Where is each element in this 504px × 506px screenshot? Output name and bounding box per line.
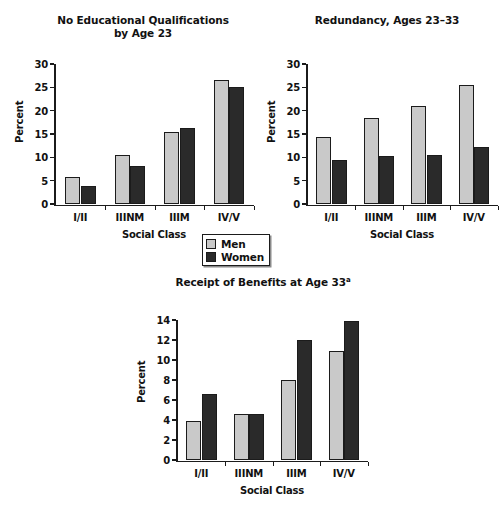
chart-title: No Educational Qualifications by Age 23 — [28, 14, 258, 40]
bar-women-iv-v — [229, 87, 244, 204]
y-axis-tick-labels: 051015202530 — [280, 44, 300, 204]
x-tick-mark — [254, 206, 255, 210]
y-tick-label: 14 — [156, 315, 170, 326]
bar-women-i-ii — [202, 394, 217, 460]
chart-title-footnote-marker: a — [346, 276, 351, 284]
bar-women-i-ii — [332, 160, 347, 204]
x-tick-mark — [450, 206, 451, 210]
y-tick-label: 10 — [286, 152, 300, 163]
x-tick-mark — [155, 206, 156, 210]
y-tick-label: 15 — [286, 129, 300, 140]
plot-area-wrapper: Percent 051015202530 I/IIIIINMIIIMIV/V S… — [8, 44, 258, 246]
y-tick-label: 0 — [293, 199, 300, 210]
y-tick-mark — [302, 63, 306, 64]
legend-swatch-men-icon — [206, 239, 216, 249]
y-tick-mark — [50, 180, 54, 181]
x-axis-label: Social Class — [306, 229, 498, 240]
bar-men-i-ii — [65, 177, 80, 204]
x-tick-label: IIIM — [286, 468, 306, 479]
y-tick-label: 25 — [34, 82, 48, 93]
x-tick-label: I/II — [194, 468, 208, 479]
x-tick-label: IV/V — [333, 468, 355, 479]
chart-title-line1: No Educational Qualifications — [28, 14, 258, 27]
y-tick-mark — [302, 180, 306, 181]
y-tick-label: 12 — [156, 335, 170, 346]
bar-women-iiim — [297, 340, 312, 460]
y-tick-mark — [172, 359, 176, 360]
y-tick-label: 10 — [156, 355, 170, 366]
bar-women-iv-v — [474, 147, 489, 204]
x-tick-mark — [225, 462, 226, 466]
y-axis-tick-labels: 02468101214 — [150, 300, 170, 460]
x-tick-label: IIINM — [235, 468, 263, 479]
y-tick-label: 25 — [286, 82, 300, 93]
chart-panel-receipt-of-benefits: Receipt of Benefits at Age 33a Percent 0… — [128, 276, 388, 502]
y-axis-label: Percent — [136, 332, 150, 432]
bar-men-iiim — [281, 380, 296, 460]
bar-men-iiinm — [115, 155, 130, 204]
bar-men-iv-v — [459, 85, 474, 204]
x-tick-mark — [403, 206, 404, 210]
x-tick-mark — [498, 206, 499, 210]
y-axis-label: Percent — [14, 72, 28, 172]
x-axis-label: Social Class — [176, 485, 368, 496]
y-tick-label: 30 — [34, 59, 48, 70]
x-tick-label: IIIM — [169, 212, 189, 223]
x-tick-label: I/II — [324, 212, 338, 223]
y-axis-label: Percent — [266, 72, 280, 172]
x-tick-mark — [105, 206, 106, 210]
bar-women-iiinm — [379, 156, 394, 204]
chart-title-text: Receipt of Benefits at Age 33 — [175, 276, 345, 288]
chart-title-line1: Redundancy, Ages 23–33 — [272, 14, 502, 27]
y-tick-mark — [172, 439, 176, 440]
bar-women-iiinm — [130, 166, 145, 204]
y-tick-label: 10 — [34, 152, 48, 163]
y-tick-mark — [50, 110, 54, 111]
x-tick-mark — [273, 462, 274, 466]
legend-label-men: Men — [221, 238, 245, 250]
x-tick-label: IIIM — [416, 212, 436, 223]
legend: Men Women — [202, 234, 270, 266]
y-tick-mark — [302, 203, 306, 204]
y-tick-mark — [50, 63, 54, 64]
legend-item-men: Men — [206, 237, 264, 250]
x-tick-mark — [355, 206, 356, 210]
chart-title-line1: Receipt of Benefits at Age 33a — [148, 276, 378, 289]
plot-area-wrapper: Percent 051015202530 I/IIIIINMIIIMIV/V S… — [258, 44, 502, 246]
legend-label-women: Women — [221, 251, 264, 263]
x-tick-label: I/II — [73, 212, 87, 223]
y-tick-mark — [302, 110, 306, 111]
y-tick-mark — [50, 87, 54, 88]
bars-container — [178, 320, 368, 460]
bar-men-iiinm — [234, 414, 249, 460]
y-tick-label: 20 — [286, 105, 300, 116]
y-axis-tick-labels: 051015202530 — [28, 44, 48, 204]
y-tick-label: 2 — [163, 435, 170, 446]
y-tick-label: 8 — [163, 375, 170, 386]
y-tick-mark — [172, 339, 176, 340]
x-tick-label: IV/V — [463, 212, 485, 223]
y-tick-mark — [302, 133, 306, 134]
y-tick-label: 4 — [163, 415, 170, 426]
y-tick-mark — [172, 319, 176, 320]
bar-women-iv-v — [344, 321, 359, 460]
bar-men-iiim — [164, 132, 179, 204]
chart-panel-no-educational-qualifications: No Educational Qualifications by Age 23 … — [8, 14, 258, 246]
bar-men-iv-v — [214, 80, 229, 204]
y-tick-mark — [172, 459, 176, 460]
x-tick-mark — [204, 206, 205, 210]
plot-area-wrapper: Percent 02468101214 I/IIIIINMIIIMIV/V So… — [128, 300, 388, 502]
y-tick-mark — [172, 419, 176, 420]
chart-title-line2: by Age 23 — [28, 27, 258, 40]
y-tick-label: 20 — [34, 105, 48, 116]
y-tick-mark — [172, 379, 176, 380]
y-tick-mark — [50, 157, 54, 158]
y-tick-mark — [172, 399, 176, 400]
x-tick-label: IV/V — [218, 212, 240, 223]
y-tick-mark — [302, 157, 306, 158]
bar-men-iv-v — [329, 351, 344, 460]
x-tick-mark — [368, 462, 369, 466]
y-tick-label: 5 — [41, 175, 48, 186]
y-tick-label: 5 — [293, 175, 300, 186]
y-tick-label: 0 — [41, 199, 48, 210]
